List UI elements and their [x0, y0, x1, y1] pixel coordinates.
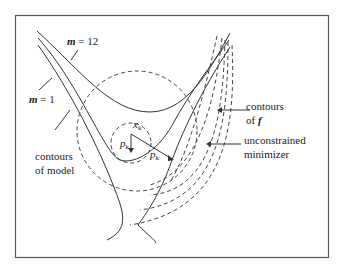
label-pk-short: pk: [119, 137, 130, 151]
model-contour-inner-left: [38, 45, 123, 240]
label-model-1: contours: [35, 150, 73, 162]
model-pointer: [55, 110, 70, 130]
label-m12: m = 12: [67, 35, 98, 47]
label-f-1: contours: [246, 100, 284, 112]
f-contour-3: [150, 40, 225, 195]
f-contour-4: [140, 42, 228, 210]
label-xk: xk: [132, 118, 142, 132]
min-pointer-head: [206, 141, 211, 147]
label-f-2: of f: [246, 114, 263, 126]
m1-pointer: [39, 78, 52, 90]
model-contour-middle: [38, 38, 229, 161]
label-min-1: unconstrained: [244, 134, 306, 146]
f-pointer-head: [217, 107, 222, 113]
label-m1: m = 1: [29, 93, 55, 105]
trust-region-diagram: m = 12 m = 1 contours of model contours …: [0, 0, 342, 271]
label-min-2: minimizer: [244, 148, 290, 160]
label-model-2: of model: [35, 164, 74, 176]
m12-pointer: [71, 50, 78, 60]
